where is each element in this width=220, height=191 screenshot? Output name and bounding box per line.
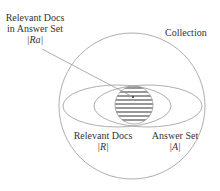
relevant-in-answer-label: Relevant Docs in Answer Set |Ra|	[4, 12, 66, 45]
collection-label: Collection	[165, 27, 207, 38]
relevant-docs-ellipse	[63, 85, 171, 127]
collection-circle	[59, 33, 205, 179]
venn-diagram: Relevant Docs in Answer Set |Ra| Collect…	[0, 0, 220, 191]
answer-set-label: Answer Set |A|	[150, 130, 200, 152]
relevant-docs-label: Relevant Docs |R|	[72, 130, 134, 152]
pointer-line	[42, 49, 133, 97]
answer-set-ellipse	[94, 85, 202, 127]
